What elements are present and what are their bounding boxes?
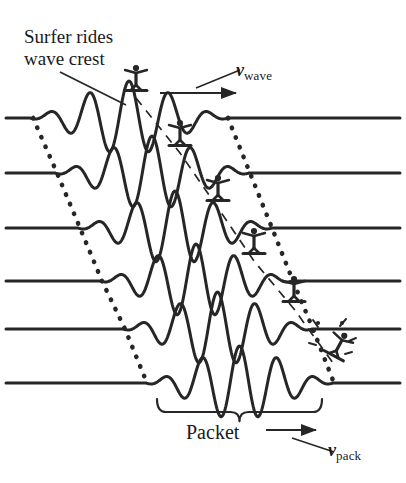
wave-row-4 [6,244,400,315]
v-wave-symbol: v [236,60,244,80]
surfer-figure-row-1 [125,65,147,91]
v-wave-leader-line [196,70,240,88]
v-pack-symbol: v [328,440,336,460]
caption-leader-line [60,72,126,105]
caption-surfer-rides-wave-crest: Surfer rides wave crest [24,26,113,71]
wave-packet-illustration [0,0,406,483]
caption-line-1: Surfer rides [24,26,113,48]
packet-brace [157,399,322,421]
surfer-figure-row-4 [243,228,265,254]
wave-packet-figure: Surfer rides wave crest vwave Packet vpa… [0,0,406,483]
caption-line-2: wave crest [24,48,113,70]
wave-row-1 [6,81,400,152]
v-wave-subscript: wave [244,68,272,83]
packet-envelope-left [33,118,147,383]
wave-row-3 [6,191,400,262]
wave-row-6 [6,346,400,417]
label-packet: Packet [186,421,239,445]
label-v-wave: vwave [236,60,272,83]
wave-row-5 [6,292,400,363]
v-pack-subscript: pack [336,448,361,463]
label-v-pack: vpack [328,440,361,463]
